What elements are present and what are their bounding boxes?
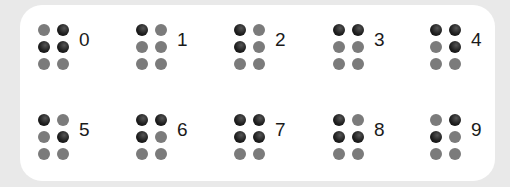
braille-dot-3	[234, 58, 246, 70]
braille-dot-1	[430, 24, 442, 36]
braille-dot-5	[449, 131, 461, 143]
braille-dot-1	[333, 114, 345, 126]
braille-dot-5	[155, 41, 167, 53]
digit-label: 9	[471, 120, 482, 139]
braille-dot-6	[352, 58, 364, 70]
braille-dot-6	[57, 148, 69, 160]
braille-dot-2	[38, 131, 50, 143]
braille-dot-6	[449, 148, 461, 160]
braille-dot-1	[136, 24, 148, 36]
digit-label: 3	[374, 30, 385, 49]
braille-dot-3	[38, 148, 50, 160]
braille-dot-5	[352, 41, 364, 53]
braille-dot-2	[333, 131, 345, 143]
braille-dot-1	[136, 114, 148, 126]
braille-dot-5	[155, 131, 167, 143]
braille-dot-4	[57, 114, 69, 126]
braille-dot-4	[449, 114, 461, 126]
braille-cell-6: 6	[136, 114, 216, 174]
braille-dot-3	[430, 148, 442, 160]
braille-dot-3	[136, 58, 148, 70]
digit-label: 0	[79, 30, 90, 49]
braille-dot-1	[430, 114, 442, 126]
braille-dot-2	[136, 41, 148, 53]
braille-dot-3	[333, 58, 345, 70]
braille-dot-3	[333, 148, 345, 160]
braille-dot-4	[57, 24, 69, 36]
braille-dot-3	[136, 148, 148, 160]
braille-dot-1	[38, 24, 50, 36]
braille-dot-6	[155, 58, 167, 70]
braille-cell-8: 8	[333, 114, 413, 174]
braille-dot-6	[155, 148, 167, 160]
braille-dot-6	[57, 58, 69, 70]
digit-label: 1	[177, 30, 188, 49]
braille-dot-2	[430, 131, 442, 143]
digit-label: 8	[374, 120, 385, 139]
braille-dot-3	[38, 58, 50, 70]
braille-cell-1: 1	[136, 24, 216, 84]
braille-dot-4	[155, 114, 167, 126]
braille-cell-0: 0	[38, 24, 118, 84]
braille-dot-1	[234, 114, 246, 126]
braille-cell-2: 2	[234, 24, 314, 84]
braille-dot-2	[234, 131, 246, 143]
braille-dot-6	[253, 148, 265, 160]
braille-card: 0 1 2 3 4	[20, 5, 495, 181]
braille-dot-6	[352, 148, 364, 160]
braille-dot-2	[38, 41, 50, 53]
digit-label: 6	[177, 120, 188, 139]
braille-dot-2	[136, 131, 148, 143]
braille-dot-5	[57, 41, 69, 53]
braille-dot-2	[430, 41, 442, 53]
braille-cell-5: 5	[38, 114, 118, 174]
braille-dot-5	[57, 131, 69, 143]
braille-dot-5	[449, 41, 461, 53]
braille-dot-6	[449, 58, 461, 70]
braille-dot-4	[155, 24, 167, 36]
braille-dot-2	[333, 41, 345, 53]
braille-dot-5	[253, 131, 265, 143]
braille-dot-4	[352, 114, 364, 126]
digit-label: 4	[471, 30, 482, 49]
braille-dot-1	[38, 114, 50, 126]
braille-cell-9: 9	[430, 114, 510, 174]
digit-label: 2	[275, 30, 286, 49]
braille-dot-4	[449, 24, 461, 36]
braille-dot-5	[253, 41, 265, 53]
braille-cell-3: 3	[333, 24, 413, 84]
braille-dot-1	[234, 24, 246, 36]
braille-dot-3	[430, 58, 442, 70]
braille-cell-4: 4	[430, 24, 510, 84]
braille-dot-4	[352, 24, 364, 36]
braille-dot-6	[253, 58, 265, 70]
braille-dot-5	[352, 131, 364, 143]
braille-dot-4	[253, 114, 265, 126]
digit-label: 5	[79, 120, 90, 139]
braille-dot-1	[333, 24, 345, 36]
braille-cell-7: 7	[234, 114, 314, 174]
digit-label: 7	[275, 120, 286, 139]
braille-dot-3	[234, 148, 246, 160]
braille-dot-2	[234, 41, 246, 53]
braille-dot-4	[253, 24, 265, 36]
